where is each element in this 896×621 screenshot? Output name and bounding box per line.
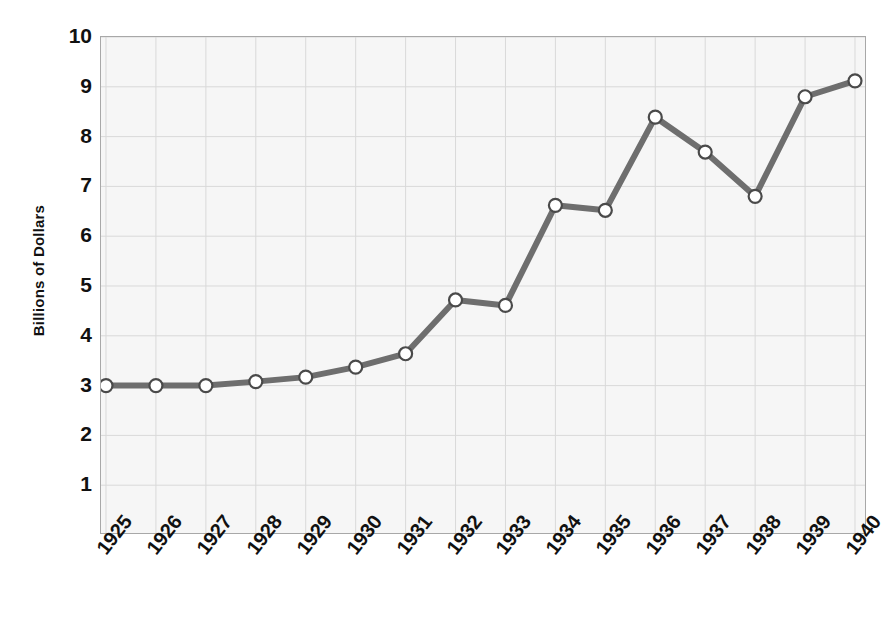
x-axis-tick-label: 1927 [192, 511, 237, 559]
x-axis-tick-label: 1933 [491, 511, 536, 559]
x-axis-tick-label: 1934 [541, 511, 586, 559]
x-axis-tick-label: 1939 [791, 511, 836, 559]
x-axis-tick-labels: 1925192619271928192919301931193219331934… [0, 0, 896, 621]
x-axis-tick-label: 1936 [641, 511, 686, 559]
x-axis-tick-label: 1925 [92, 511, 137, 559]
line-chart: the of numbered in maximum minimum for t… [0, 0, 896, 621]
x-axis-tick-label: 1937 [691, 511, 736, 559]
x-axis-tick-label: 1935 [591, 511, 636, 559]
x-axis-tick-label: 1932 [442, 511, 487, 559]
x-axis-tick-label: 1940 [841, 511, 886, 559]
x-axis-tick-label: 1938 [741, 511, 786, 559]
x-axis-tick-label: 1930 [342, 511, 387, 559]
x-axis-tick-label: 1931 [392, 511, 437, 559]
x-axis-tick-label: 1926 [142, 511, 187, 559]
x-axis-tick-label: 1929 [292, 511, 337, 559]
x-axis-tick-label: 1928 [242, 511, 287, 559]
